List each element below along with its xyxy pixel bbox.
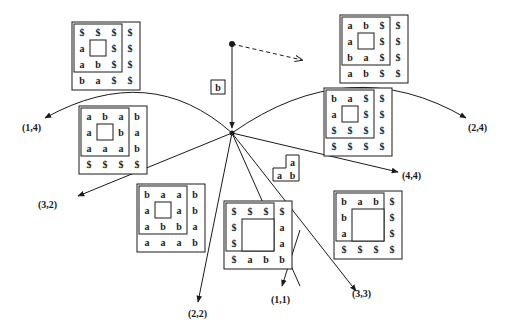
grid-cell: $ bbox=[248, 206, 253, 217]
grid-cell: a bbox=[119, 111, 124, 122]
center-node-icon bbox=[230, 131, 235, 136]
grid-cell: b bbox=[160, 221, 166, 232]
grid-cell: a bbox=[119, 143, 124, 154]
grid-hole bbox=[242, 219, 274, 251]
grid-cell: a bbox=[96, 75, 101, 86]
grid-cell: $ bbox=[364, 141, 369, 152]
grid-hole bbox=[352, 209, 384, 241]
small-shape-cell: b bbox=[290, 170, 296, 181]
grid-right-upper: ba$$a$$$$$$$$$$ bbox=[324, 88, 392, 156]
grid-cell: $ bbox=[380, 36, 385, 47]
dashed-arrow bbox=[232, 44, 302, 60]
grid-cell: $ bbox=[128, 75, 133, 86]
grid-cell: $ bbox=[380, 125, 385, 136]
grid-cell: b bbox=[118, 127, 124, 138]
grid-cell: a bbox=[348, 36, 353, 47]
grid-cell: $ bbox=[232, 254, 237, 265]
grid-cell: $ bbox=[128, 43, 133, 54]
grid-cell: a bbox=[145, 221, 150, 232]
grid-cell: $ bbox=[396, 20, 401, 31]
grid-cell: a bbox=[332, 109, 337, 120]
grid-cell: a bbox=[87, 143, 92, 154]
grid-cell: $ bbox=[112, 59, 117, 70]
grid-top-right: ab$$a$$ba$$ab$$ bbox=[340, 15, 408, 83]
grid-cell: b bbox=[341, 212, 347, 223]
grid-cell: $ bbox=[348, 125, 353, 136]
grid-cell: a bbox=[87, 111, 92, 122]
grid-cell: $ bbox=[112, 43, 117, 54]
grid-cell: $ bbox=[364, 109, 369, 120]
grid-cell: $ bbox=[332, 125, 337, 136]
grid-cell: $ bbox=[112, 75, 117, 86]
grid-cell: $ bbox=[232, 238, 237, 249]
small-shape-cell: a bbox=[277, 170, 282, 181]
grid-cell: b bbox=[176, 221, 182, 232]
grid-cell: a bbox=[145, 205, 150, 216]
grid-cell: b bbox=[363, 68, 369, 79]
grid-cell: a bbox=[193, 221, 198, 232]
grid-hole bbox=[155, 202, 171, 218]
label-1-4: (1,4) bbox=[22, 122, 41, 134]
grid-cell: b bbox=[144, 189, 150, 200]
grid-cell: b bbox=[263, 254, 269, 265]
grid-cell: $ bbox=[390, 244, 395, 255]
grid-cell: b bbox=[79, 75, 85, 86]
grid-cell: $ bbox=[342, 244, 347, 255]
label-2-4: (2,4) bbox=[468, 122, 487, 134]
small-tile-shape: aab bbox=[273, 155, 299, 181]
grid-cell: $ bbox=[264, 206, 269, 217]
label-3-3: (3,3) bbox=[352, 288, 371, 300]
grid-cell: $ bbox=[396, 68, 401, 79]
grid-cell: $ bbox=[390, 196, 395, 207]
grid-cell: $ bbox=[128, 59, 133, 70]
grid-cell: $ bbox=[364, 125, 369, 136]
grid-left-middle: abababaaaab$$$$ bbox=[79, 106, 147, 174]
small-shape-cell: a bbox=[290, 157, 295, 168]
grid-cell: b bbox=[373, 196, 379, 207]
grid-cell: $ bbox=[103, 159, 108, 170]
grid-cell: a bbox=[177, 205, 182, 216]
grid-cell: a bbox=[358, 196, 363, 207]
label-2-2: (2,2) bbox=[188, 308, 207, 320]
diagram-canvas: b (1,4) (2,4) (3,2) (4,4) (2,2) (1,1) (3… bbox=[0, 0, 511, 335]
grid-cell: $ bbox=[232, 222, 237, 233]
start-tile-label: b bbox=[215, 82, 221, 93]
grid-cell: a bbox=[280, 222, 285, 233]
grid-cell: a bbox=[248, 254, 253, 265]
diagram-svg: b (1,4) (2,4) (3,2) (4,4) (2,2) (1,1) (3… bbox=[0, 0, 511, 335]
grid-group: $$$$a$$ab$$ba$$ab$$a$$ba$$ab$$ba$$a$$$$$… bbox=[72, 15, 408, 269]
grid-lower-right: bab$b$a$$$$$ bbox=[334, 191, 402, 259]
grid-cell: $ bbox=[374, 244, 379, 255]
label-4-4: (4,4) bbox=[402, 170, 421, 182]
grid-cell: a bbox=[161, 189, 166, 200]
grid-cell: a bbox=[80, 59, 85, 70]
grid-cell: b bbox=[341, 196, 347, 207]
grid-cell: $ bbox=[396, 52, 401, 63]
grid-cell: $ bbox=[380, 68, 385, 79]
grid-hole bbox=[90, 40, 106, 56]
grid-cell: b bbox=[134, 143, 140, 154]
grid-cell: b bbox=[192, 205, 198, 216]
grid-cell: a bbox=[348, 20, 353, 31]
grid-cell: $ bbox=[380, 141, 385, 152]
grid-cell: b bbox=[192, 237, 198, 248]
grid-cell: $ bbox=[380, 20, 385, 31]
grid-cell: a bbox=[103, 143, 108, 154]
grid-cell: $ bbox=[390, 212, 395, 223]
grid-cell: $ bbox=[348, 141, 353, 152]
grid-cell: $ bbox=[390, 228, 395, 239]
grid-cell: $ bbox=[96, 27, 101, 38]
label-1-1: (1,1) bbox=[271, 294, 290, 306]
grid-cell: a bbox=[135, 127, 140, 138]
grid-cell: a bbox=[342, 228, 347, 239]
grid-cell: a bbox=[145, 237, 150, 248]
grid-lower-left: baabaababbaaaab bbox=[137, 184, 205, 252]
grid-cell: a bbox=[280, 238, 285, 249]
grid-cell: $ bbox=[380, 109, 385, 120]
grid-cell: b bbox=[363, 20, 369, 31]
grid-cell: $ bbox=[87, 159, 92, 170]
grid-cell: b bbox=[347, 52, 353, 63]
start-node: b bbox=[211, 41, 302, 128]
grid-cell: $ bbox=[396, 36, 401, 47]
grid-cell: a bbox=[177, 189, 182, 200]
